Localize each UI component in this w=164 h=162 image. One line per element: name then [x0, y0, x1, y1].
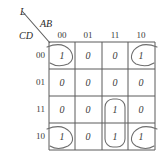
- cell-11-01: 0: [75, 105, 101, 115]
- cell-01-10: 0: [128, 78, 154, 88]
- cell-00-10: 1: [128, 51, 154, 61]
- diagonal-divider-line: [22, 11, 50, 43]
- cell-11-11: 1: [102, 105, 128, 115]
- cell-00-01: 0: [75, 51, 101, 61]
- cell-10-11: 1: [102, 132, 128, 142]
- cell-10-01: 0: [75, 132, 101, 142]
- cell-01-11: 0: [102, 78, 128, 88]
- cell-11-10: 0: [128, 105, 154, 115]
- cell-01-01: 0: [75, 78, 101, 88]
- cell-10-00: 1: [49, 132, 75, 142]
- cell-01-00: 0: [49, 78, 75, 88]
- cell-10-10: 1: [128, 132, 154, 142]
- karnaugh-map-diagram: L AB CD 00 01 11 10 00 01 11 10: [0, 0, 164, 162]
- cell-00-00: 1: [49, 51, 75, 61]
- cell-00-11: 0: [102, 51, 128, 61]
- cell-11-00: 0: [49, 105, 75, 115]
